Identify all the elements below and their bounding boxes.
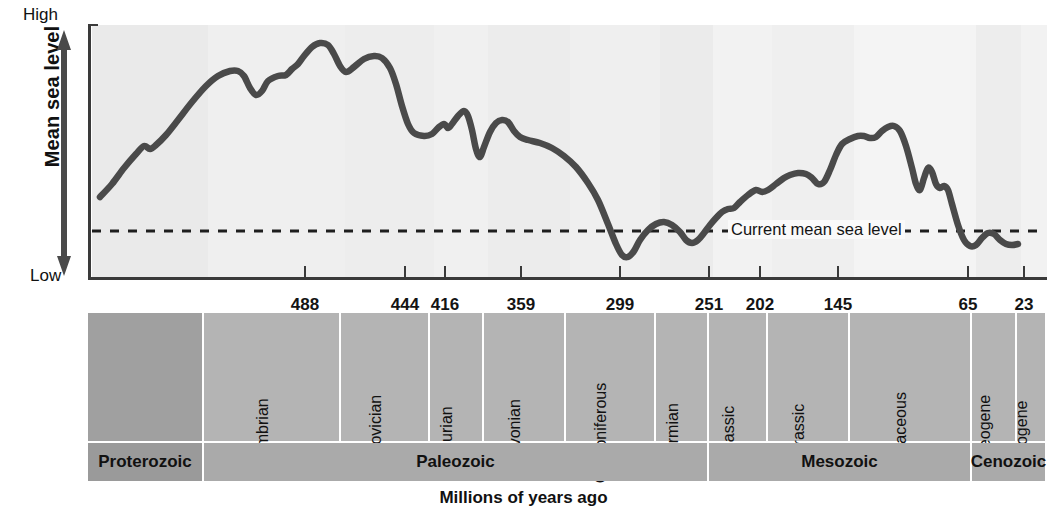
era-label: Paleozoic (416, 452, 494, 472)
era-row: ProterozoicPaleozoicMesozoicCenozoic (88, 443, 1047, 481)
plot-area: Current mean sea level 48844441635929925… (88, 12, 1047, 280)
era-cell-mesozoic: Mesozoic (709, 443, 972, 481)
geologic-timescale: CambrianOrdovicianSilurianDevonianCarbon… (88, 313, 1047, 481)
x-tick-label: 145 (824, 295, 852, 315)
period-cell-cretaceous: Cretaceous (850, 313, 972, 441)
x-tick-label: 299 (606, 295, 634, 315)
period-cell-neogene: Neogene (1017, 313, 1047, 441)
period-cell-ordovician: Ordovician (341, 313, 430, 441)
x-tick-label: 251 (695, 295, 723, 315)
era-label: Cenozoic (971, 452, 1047, 472)
period-cell-silurian: Silurian (430, 313, 484, 441)
x-tick-label: 23 (1015, 295, 1034, 315)
x-axis-ticks (305, 266, 1024, 277)
current-sea-level-annotation: Current mean sea level (728, 220, 905, 239)
x-tick-label: 202 (746, 295, 774, 315)
period-cell-permian: Permian (656, 313, 709, 441)
era-cell-proterozoic: Proterozoic (88, 443, 204, 481)
x-tick-label: 444 (391, 295, 419, 315)
x-axis-title: Millions of years ago (0, 488, 1047, 508)
era-label: Mesozoic (801, 452, 878, 472)
period-row: CambrianOrdovicianSilurianDevonianCarbon… (88, 313, 1047, 441)
period-cell-paleogene: Paleogene (972, 313, 1017, 441)
figure-root: High Low Mean sea level (0, 0, 1047, 517)
x-tick-label: 65 (959, 295, 978, 315)
period-cell-devonian: Devonian (484, 313, 566, 441)
era-label: Proterozoic (98, 452, 192, 472)
x-tick-label: 416 (431, 295, 459, 315)
sea-level-curve (88, 12, 1047, 280)
double-arrow-icon (56, 30, 72, 276)
period-cell-cambrian: Cambrian (204, 313, 341, 441)
era-cell-cenozoic: Cenozoic (972, 443, 1047, 481)
period-cell-blank (88, 313, 204, 441)
period-cell-triassic: Triassic (709, 313, 768, 441)
x-tick-label: 488 (291, 295, 319, 315)
x-tick-label: 359 (507, 295, 535, 315)
era-cell-paleozoic: Paleozoic (204, 443, 709, 481)
period-cell-carboniferous: Carboniferous (566, 313, 656, 441)
period-cell-jurassic: Jurassic (768, 313, 850, 441)
